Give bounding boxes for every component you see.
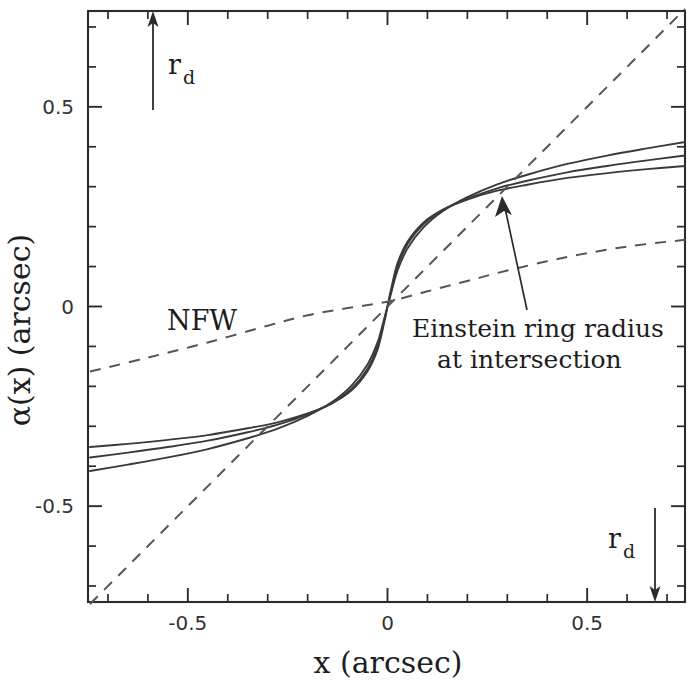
- rd-bottom-arrow: [650, 508, 661, 602]
- figure-canvas: r d r d NFW Einstein ring radius at inte…: [0, 0, 695, 685]
- x-tick-labels: -0.500.5: [168, 611, 603, 635]
- einstein-annotation-line1: Einstein ring radius: [412, 314, 664, 343]
- rd-bottom-subscript: d: [623, 540, 635, 562]
- y-tick-label: 0: [61, 295, 74, 319]
- rd-top-label: r: [168, 49, 181, 80]
- x-axis-title: x (arcsec): [314, 645, 463, 680]
- y-axis-title: α(x) (arcsec): [2, 234, 37, 427]
- x-tick-label: -0.5: [168, 611, 207, 635]
- rd-top-subscript: d: [183, 66, 195, 88]
- lensing-deflection-plot: r d r d NFW Einstein ring radius at inte…: [0, 0, 695, 685]
- rd-bottom-label: r: [608, 523, 621, 554]
- einstein-annotation-line2: at intersection: [437, 345, 622, 374]
- y-tick-label: 0.5: [42, 95, 74, 119]
- x-tick-label: 0.5: [571, 611, 603, 635]
- rd-top-arrow: [148, 11, 159, 110]
- y-tick-label: -0.5: [35, 494, 74, 518]
- einstein-annotation-arrow: [495, 196, 527, 310]
- x-tick-label: 0: [381, 611, 394, 635]
- y-tick-labels: 0.50-0.5: [35, 95, 74, 518]
- nfw-label: NFW: [167, 305, 237, 336]
